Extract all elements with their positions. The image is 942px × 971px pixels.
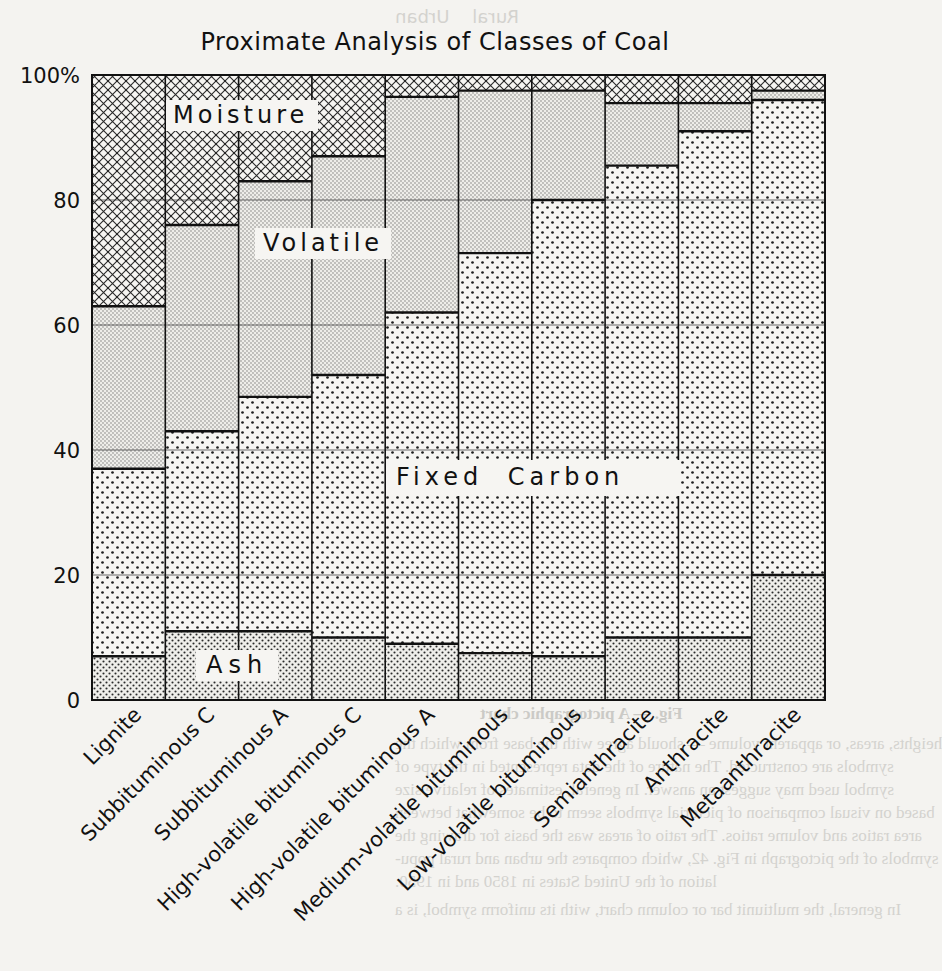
x-category-label: Lignite bbox=[79, 703, 146, 770]
y-tick-label: 40 bbox=[53, 439, 80, 463]
bar-segment-volatile bbox=[312, 156, 385, 375]
bar-segment-fixed-carbon bbox=[165, 431, 238, 631]
bar-segment-fixed-carbon bbox=[239, 397, 312, 631]
y-tick-label: 100% bbox=[20, 64, 80, 88]
bar-segment-fixed-carbon bbox=[92, 469, 165, 657]
bar-segment-ash bbox=[532, 656, 605, 700]
bar-segment-volatile bbox=[678, 103, 751, 131]
bar-segment-fixed-carbon bbox=[312, 375, 385, 638]
bar-segment-moisture bbox=[385, 75, 458, 97]
bar-segment-fixed-carbon bbox=[459, 253, 532, 653]
series-label-ash: Ash bbox=[196, 650, 278, 681]
y-tick-label: 60 bbox=[53, 314, 80, 338]
bar-segment-volatile bbox=[239, 181, 312, 397]
bar-segment-moisture bbox=[678, 75, 751, 103]
bar-segment-fixed-carbon bbox=[678, 131, 751, 637]
bar-segment-moisture bbox=[605, 75, 678, 103]
x-axis: LigniteSubbituminous CSubbituminous AHig… bbox=[76, 702, 806, 926]
bar-segment-fixed-carbon bbox=[532, 200, 605, 656]
bar-segment-volatile bbox=[605, 103, 678, 166]
bar-segment-ash bbox=[385, 644, 458, 700]
series-label-volatile: Volatile bbox=[255, 228, 391, 259]
bar-segment-volatile bbox=[165, 225, 238, 431]
y-tick-label: 80 bbox=[53, 189, 80, 213]
bar-segment-volatile bbox=[532, 91, 605, 200]
bar-segment-fixed-carbon bbox=[752, 100, 825, 575]
bar-segment-volatile bbox=[459, 91, 532, 254]
bar-segment-ash bbox=[92, 656, 165, 700]
y-tick-label: 20 bbox=[53, 564, 80, 588]
bar-segment-moisture bbox=[532, 75, 605, 91]
bar-segment-ash bbox=[312, 638, 385, 701]
series-label-moisture: Moisture bbox=[166, 100, 318, 131]
bar-segment-volatile bbox=[385, 97, 458, 313]
chart-title: Proximate Analysis of Classes of Coal bbox=[145, 28, 725, 56]
bar-segment-ash bbox=[459, 653, 532, 700]
bar-segment-moisture bbox=[312, 75, 385, 156]
series-label-fixed-carbon: Fixed Carbon bbox=[386, 460, 680, 496]
bar-segment-ash bbox=[752, 575, 825, 700]
bar-segment-ash bbox=[678, 638, 751, 701]
x-category-label: Subbituminous C bbox=[76, 703, 219, 846]
y-axis: 020406080100% bbox=[20, 64, 80, 713]
bar-segment-fixed-carbon bbox=[605, 166, 678, 638]
bar-segment-moisture bbox=[165, 75, 238, 225]
bar-segment-moisture bbox=[752, 75, 825, 91]
y-tick-label: 0 bbox=[67, 689, 80, 713]
x-category-label: Subbituminous A bbox=[150, 702, 294, 846]
bar-segment-ash bbox=[605, 638, 678, 701]
bar-segment-moisture bbox=[459, 75, 532, 91]
bar-segment-moisture bbox=[92, 75, 165, 306]
bar-segment-volatile bbox=[92, 306, 165, 469]
bar-segment-volatile bbox=[752, 91, 825, 100]
